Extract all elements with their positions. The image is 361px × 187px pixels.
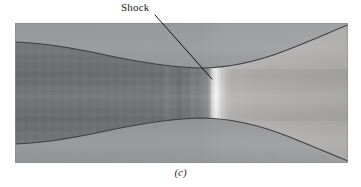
nozzle-flow-render [15, 23, 348, 163]
film-grain [15, 23, 348, 163]
figure-container: Shock (c) [0, 0, 361, 187]
shock-annotation-label: Shock [121, 1, 150, 13]
nozzle-schlieren-photo [15, 23, 348, 163]
figure-caption: (c) [0, 166, 361, 178]
